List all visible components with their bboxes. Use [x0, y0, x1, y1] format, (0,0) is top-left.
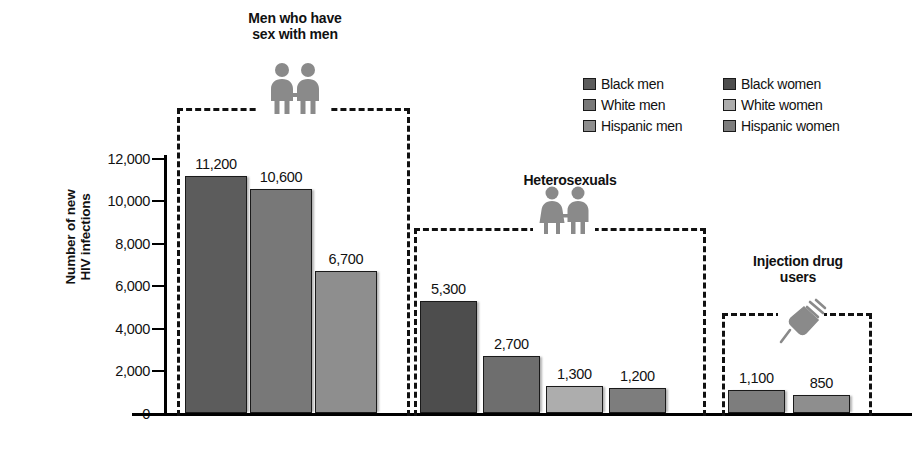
- bar: [609, 388, 666, 413]
- legend-label-black-men: Black men: [601, 77, 664, 91]
- legend-swatch-hispanic-women: [723, 120, 736, 132]
- y-axis-tick-label: 12,000: [80, 152, 150, 166]
- legend-item-hispanic-men[interactable]: Hispanic men: [583, 116, 682, 135]
- bar: [185, 176, 247, 414]
- woman-and-man-holding-hands-icon: [537, 186, 593, 234]
- bar: [546, 386, 603, 414]
- y-axis-tick-label: 10,000: [80, 194, 150, 208]
- two-men-holding-hands-icon: [262, 62, 328, 114]
- y-axis-tick-label: 2,000: [80, 364, 150, 378]
- bar: [793, 395, 850, 413]
- y-axis-line: [164, 155, 167, 416]
- group-title-idu: Injection drug users: [713, 253, 883, 285]
- legend-swatch-black-men: [583, 78, 596, 90]
- legend-label-hispanic-men: Hispanic men: [601, 119, 682, 133]
- bar-value-label: 1,200: [595, 369, 680, 383]
- legend-label-white-women: White women: [741, 98, 823, 112]
- legend-label-white-men: White men: [601, 98, 665, 112]
- legend-item-white-women[interactable]: White women: [723, 95, 840, 114]
- group-title-msm: Men who have sex with men: [180, 10, 410, 42]
- bar: [728, 390, 785, 413]
- legend-swatch-black-women: [723, 78, 736, 90]
- bar: [315, 271, 377, 413]
- legend-swatch-hispanic-men: [583, 120, 596, 132]
- legend-label-hispanic-women: Hispanic women: [741, 119, 840, 133]
- bar-value-label: 5,300: [406, 282, 491, 296]
- bar: [483, 356, 540, 413]
- legend-item-black-men[interactable]: Black men: [583, 74, 682, 93]
- bar-value-label: 10,600: [236, 170, 326, 184]
- legend-column-men: Black men White men Hispanic men: [583, 74, 682, 137]
- bar: [420, 301, 477, 413]
- legend-label-black-women: Black women: [741, 77, 821, 91]
- bar-value-label: 6,700: [301, 252, 391, 266]
- bar: [250, 189, 312, 414]
- legend-swatch-white-men: [583, 99, 596, 111]
- bar-value-label: 850: [779, 376, 864, 390]
- legend-item-white-men[interactable]: White men: [583, 95, 682, 114]
- y-axis-tick-label: 8,000: [80, 237, 150, 251]
- legend-item-hispanic-women[interactable]: Hispanic women: [723, 116, 840, 135]
- y-axis-tick-label: 6,000: [80, 279, 150, 293]
- syringe-icon: [777, 298, 829, 346]
- y-axis-tick-label: 4,000: [80, 322, 150, 336]
- legend-column-women: Black women White women Hispanic women: [723, 74, 840, 137]
- legend-item-black-women[interactable]: Black women: [723, 74, 840, 93]
- bar-value-label: 2,700: [469, 337, 554, 351]
- hiv-infections-bar-chart: Number of new HIV infections 02,0004,000…: [0, 0, 915, 452]
- legend-swatch-white-women: [723, 99, 736, 111]
